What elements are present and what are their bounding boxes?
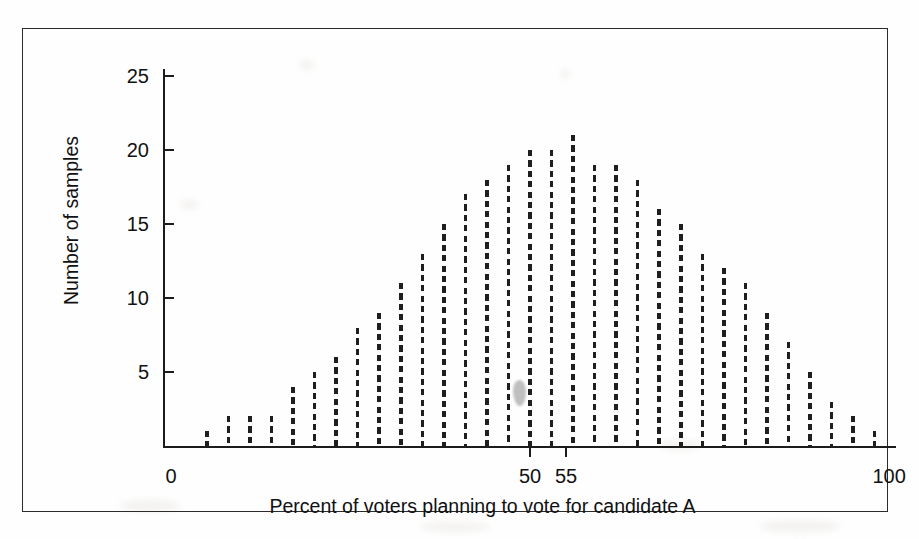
bar (765, 313, 769, 446)
x-axis-title: Percent of voters planning to vote for c… (23, 495, 919, 518)
plot-area (163, 67, 896, 447)
bar (291, 387, 295, 446)
bar (830, 402, 834, 446)
bar (334, 357, 338, 446)
bar (248, 416, 252, 446)
bar (421, 254, 425, 446)
x-axis-tick-label: 0 (166, 466, 177, 486)
bar (808, 372, 812, 446)
bar (636, 180, 640, 446)
bar (851, 416, 855, 446)
figure-frame: 510152025 05055100 Percent of voters pla… (22, 28, 888, 512)
y-axis-title: Number of samples (60, 101, 83, 341)
bar (377, 313, 381, 446)
y-axis-tick-label: 10 (93, 288, 149, 308)
bar (614, 165, 618, 446)
bar (701, 254, 705, 446)
bar (528, 150, 532, 446)
x-axis-tick-label: 55 (555, 466, 577, 486)
bar (205, 431, 209, 446)
bar (464, 194, 468, 446)
bar (679, 224, 683, 446)
x-axis-tick-label: 50 (519, 466, 541, 486)
scan-noise-speck (420, 522, 490, 532)
bar (657, 209, 661, 446)
y-axis-tick-label: 20 (93, 140, 149, 160)
bar (399, 283, 403, 446)
bar (593, 165, 597, 446)
x-axis-tick-label: 100 (873, 466, 906, 486)
y-axis-tick-label: 5 (93, 362, 149, 382)
bar (571, 135, 575, 446)
scan-noise-speck (760, 520, 840, 532)
y-axis-tick-label: 15 (93, 214, 149, 234)
bar (507, 165, 511, 446)
bar (744, 283, 748, 446)
x-axis-tick (565, 446, 567, 457)
bar (356, 328, 360, 446)
bar (313, 372, 317, 446)
bar (270, 416, 274, 446)
bar (442, 224, 446, 446)
y-axis-tick-label: 25 (93, 66, 149, 86)
x-axis-tick (529, 446, 531, 457)
bar (873, 431, 877, 446)
bar (485, 180, 489, 446)
page-background: 510152025 05055100 Percent of voters pla… (0, 0, 919, 539)
bar (722, 268, 726, 446)
bar (227, 416, 231, 446)
bar (787, 342, 791, 446)
smudge-artifact (513, 380, 526, 406)
bar (550, 150, 554, 446)
